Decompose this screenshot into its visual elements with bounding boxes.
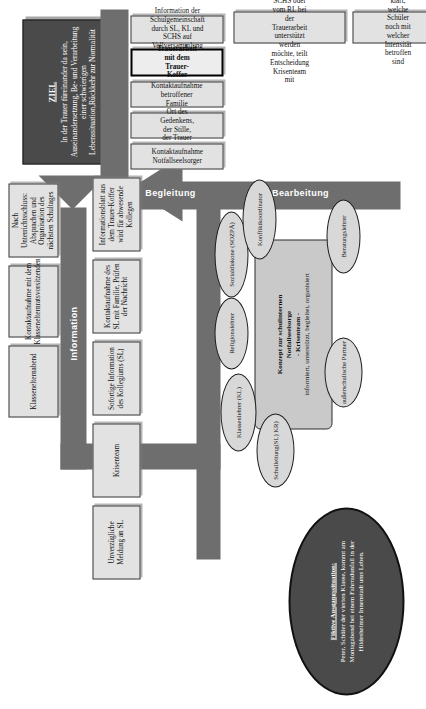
box-nach-unterrichtsschluss-label: Nach Unterrichtsschluss: Absprachen und … <box>11 187 55 253</box>
ellipse-sozialdiakone-label: Sozialdiakone (SOZPÄ) <box>227 222 234 286</box>
box-kl-entscheidet: KL entscheidet, ob er vom SCHS oder vom … <box>233 11 345 43</box>
ellipse-schulleitung-label: Schulleitung(SL) KR) <box>271 421 278 479</box>
start-situation-oval: Fiktive Ausgangssituation: Peter, Schüle… <box>288 507 404 695</box>
cluster-core-line1: Konzept zur schulinternen <box>275 294 283 374</box>
ellipse-beratungslehrer-label: Beratungslehrer <box>339 215 346 257</box>
cluster-core-line3: - Krisenteam - <box>293 312 301 355</box>
box-klassenelternabend: Klassenelternabend <box>8 345 58 417</box>
band-begleitung-text: Begleitung <box>145 187 196 197</box>
start-situation-text: Peter, Schüler der vierten Klasse, kommt… <box>338 523 364 679</box>
box-informationsblatt-label: Informationsblatt aus dem Trauer-Koffer … <box>98 181 133 247</box>
box-info-kollegium: Sofortige Information des Kollegiums (SL… <box>92 341 140 415</box>
box-kl-entscheidet-label: KL entscheidet, ob er vom SCHS oder vom … <box>269 0 308 84</box>
box-info-kollegium-label: Sofortige Information des Kollegiums (SL… <box>107 345 125 411</box>
box-info-schulgemeinschaft-label: Information der Schulgemeinschaft durch … <box>149 7 204 51</box>
ellipse-religionslehrer: Religionslehrer <box>214 297 248 369</box>
box-meldung-sl: Unverzügliche Meldung an SL <box>92 505 140 579</box>
cluster-krisenteam: Konzept zur schulinternen Notfallseelsor… <box>228 189 360 481</box>
cluster-core: Konzept zur schulinternen Notfallseelsor… <box>254 239 332 429</box>
box-kontakt-betroffene-familie: Kontaktaufnahme betroffener Familie <box>130 81 223 107</box>
ellipse-religionslehrer-label: Religionslehrer <box>227 313 234 354</box>
cluster-core-line2: Notfallseelsorge <box>284 310 292 357</box>
box-krisenteam-klaert-label: Krisenteam klärt, welche Schüler noch mi… <box>381 0 414 67</box>
box-kontakt-notfallseelsorger: Kontaktaufnahme Notfallseelsorger <box>130 143 223 169</box>
ellipse-ausserschulische-partner-label: außerschulische Partner <box>339 341 346 404</box>
begleitung-group: Kontaktaufnahme Notfallseelsorger Ort de… <box>128 0 420 169</box>
box-kontakt-familie: Kontaktaufnahme des SL mit Familie, Prüf… <box>92 259 140 333</box>
box-meldung-sl-label: Unverzügliche Meldung an SL <box>107 509 125 575</box>
band-label-information: Information <box>62 293 84 373</box>
box-krisenteam-klaert: Krisenteam klärt, welche Schüler noch mi… <box>352 11 426 43</box>
box-ort-des-gedenkens: Ort des Gedenkens, der Stille, der Traue… <box>130 112 223 138</box>
box-ort-des-gedenkens-label: Ort des Gedenkens, der Stille, der Traue… <box>160 107 194 142</box>
box-kontakt-familie-label: Kontaktaufnahme des SL mit Familie, Prüf… <box>103 263 129 329</box>
goal-text: In der Trauer füreinander da sein, Ausei… <box>59 26 97 157</box>
band-label-begleitung: Begleitung <box>140 182 200 202</box>
ellipse-konfliktkoordinator-label: Konfliktkoordinator <box>255 192 262 245</box>
box-kontakt-elternratsvorsitzende-label: Kontaktaufnahme mit dem Klassenelternrat… <box>24 258 42 344</box>
start-situation-title: Fiktive Ausgangssituation: <box>328 562 337 639</box>
box-trauerarbeit-koffer: Trauerarbeit mit dem Trauer-Koffer <box>130 48 223 76</box>
box-kontakt-betroffene-familie-label: Kontaktaufnahme betroffener Familie <box>151 81 203 107</box>
ellipse-schulleitung: Schulleitung(SL) KR) <box>256 413 294 487</box>
ellipse-klassenlehrer-label: Klassenlehrer (KL) <box>234 386 241 437</box>
box-info-schulgemeinschaft: Information der Schulgemeinschaft durch … <box>130 15 223 43</box>
goal-title: ZIEL <box>47 81 57 101</box>
ellipse-konfliktkoordinator: Konfliktkoordinator <box>242 179 276 259</box>
ellipse-klassenlehrer: Klassenlehrer (KL) <box>220 373 256 451</box>
cluster-core-line4: informiert, unterstützt, begleitet, orga… <box>302 273 310 395</box>
box-krisenteam-label: Krisenteam <box>112 443 121 476</box>
box-krisenteam: Krisenteam <box>92 423 140 497</box>
band-information-text: Information <box>68 306 78 360</box>
box-kontakt-notfallseelsorger-label: Kontaktaufnahme Notfallseelsorger <box>151 147 203 165</box>
box-kontakt-elternratsvorsitzende: Kontaktaufnahme mit dem Klassenelternrat… <box>8 265 58 337</box>
ellipse-ausserschulische-partner: außerschulische Partner <box>324 337 362 407</box>
box-klassenelternabend-label: Klassenelternabend <box>29 353 38 409</box>
box-informationsblatt: Informationsblatt aus dem Trauer-Koffer … <box>92 177 140 251</box>
flowchart-canvas: ZIEL In der Trauer füreinander da sein, … <box>0 0 426 709</box>
ellipse-beratungslehrer: Beratungslehrer <box>326 199 360 273</box>
box-nach-unterrichtsschluss: Nach Unterrichtsschluss: Absprachen und … <box>8 183 58 257</box>
